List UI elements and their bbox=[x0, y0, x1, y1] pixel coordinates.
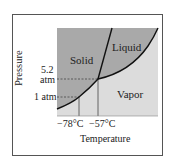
y-tick-atm: atm bbox=[40, 75, 55, 85]
x-tick-minus57: −57°C bbox=[89, 119, 115, 129]
solid-label: Solid bbox=[70, 55, 93, 65]
liquid-label: Liquid bbox=[112, 42, 141, 52]
vapor-label: Vapor bbox=[117, 89, 143, 99]
x-tick-minus78: −78°C bbox=[57, 119, 83, 129]
y-tick-1atm: 1 atm bbox=[34, 92, 57, 102]
y-axis-label: Pressure bbox=[13, 50, 24, 86]
x-axis-label: Temperature bbox=[80, 134, 130, 144]
